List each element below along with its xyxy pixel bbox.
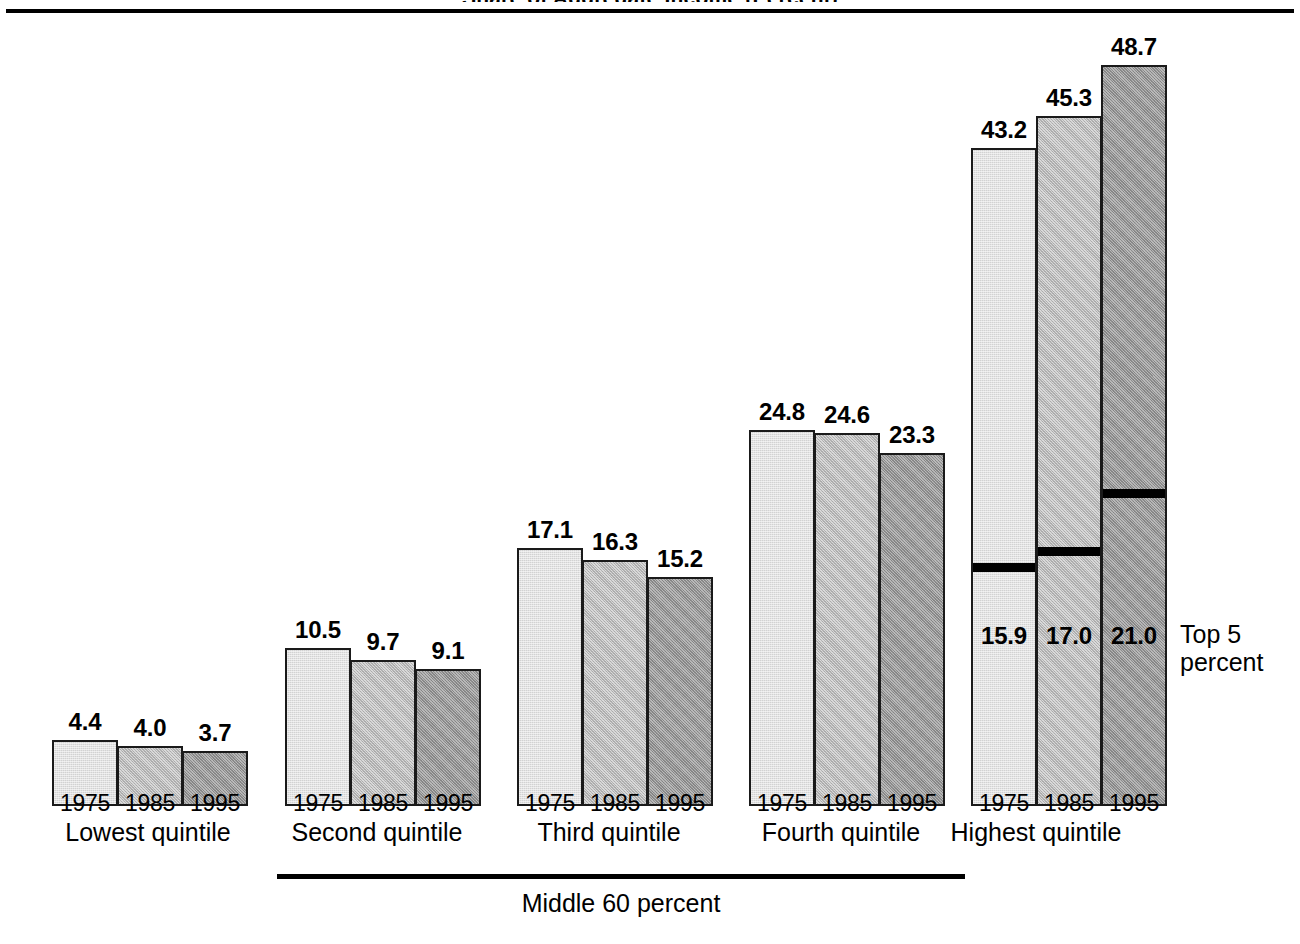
- value-label-1975: 43.2: [971, 116, 1037, 144]
- bar-highest-quintile-1985: [1036, 116, 1102, 806]
- year-label-1995: 1995: [415, 790, 481, 817]
- year-label-1995: 1995: [647, 790, 713, 817]
- value-label-1985: 16.3: [582, 528, 648, 556]
- bar-fourth-quintile-1985: [814, 433, 880, 806]
- year-label-1975: 1975: [971, 790, 1037, 817]
- bar-third-quintile-1975: [517, 548, 583, 806]
- value-label-1995: 23.3: [879, 421, 945, 449]
- value-label-1975: 4.4: [52, 708, 118, 736]
- value-label-1975: 17.1: [517, 516, 583, 544]
- year-label-1975: 1975: [517, 790, 583, 817]
- bar-third-quintile-1985: [582, 560, 648, 806]
- bar-highest-quintile-1995: [1101, 65, 1167, 806]
- value-label-1995: 48.7: [1101, 33, 1167, 61]
- bar-fourth-quintile-1995: [879, 453, 945, 806]
- bar-second-quintile-1985: [350, 660, 416, 806]
- top5-value-1995: 21.0: [1101, 622, 1167, 650]
- year-label-1975: 1975: [749, 790, 815, 817]
- year-label-1975: 1975: [52, 790, 118, 817]
- middle60-bracket-rule: [277, 874, 965, 879]
- top5-divider-1985: [1038, 547, 1100, 556]
- title-divider-rule: [6, 9, 1294, 13]
- chart-title: Share of Aggregate Income (Percent): [0, 0, 1300, 2]
- value-label-1975: 24.8: [749, 398, 815, 426]
- value-label-1995: 9.1: [415, 637, 481, 665]
- year-label-1985: 1985: [1036, 790, 1102, 817]
- top5-percent-annotation: Top 5 percent: [1180, 620, 1263, 676]
- year-label-1985: 1985: [582, 790, 648, 817]
- top5-divider-1975: [973, 563, 1035, 572]
- bar-highest-quintile-1975: [971, 148, 1037, 806]
- top5-value-1975: 15.9: [971, 622, 1037, 650]
- top5-annotation-line1: Top 5: [1180, 620, 1263, 648]
- year-label-1995: 1995: [879, 790, 945, 817]
- top5-value-1985: 17.0: [1036, 622, 1102, 650]
- bar-third-quintile-1995: [647, 577, 713, 806]
- bar-fourth-quintile-1975: [749, 430, 815, 806]
- middle60-caption: Middle 60 percent: [421, 889, 821, 918]
- chart-canvas: Share of Aggregate Income (Percent) 4.44…: [0, 0, 1300, 944]
- value-label-1975: 10.5: [285, 616, 351, 644]
- top5-annotation-line2: percent: [1180, 648, 1263, 676]
- bar-second-quintile-1975: [285, 648, 351, 806]
- value-label-1985: 24.6: [814, 401, 880, 429]
- year-label-1995: 1995: [1101, 790, 1167, 817]
- value-label-1985: 9.7: [350, 628, 416, 656]
- value-label-1995: 15.2: [647, 545, 713, 573]
- year-label-1975: 1975: [285, 790, 351, 817]
- top5-divider-1995: [1103, 489, 1165, 498]
- value-label-1985: 4.0: [117, 714, 183, 742]
- group-caption-highest-quintile: Highest quintile: [886, 818, 1186, 847]
- year-label-1985: 1985: [814, 790, 880, 817]
- year-label-1985: 1985: [350, 790, 416, 817]
- bar-second-quintile-1995: [415, 669, 481, 806]
- year-label-1995: 1995: [182, 790, 248, 817]
- value-label-1985: 45.3: [1036, 84, 1102, 112]
- value-label-1995: 3.7: [182, 719, 248, 747]
- year-label-1985: 1985: [117, 790, 183, 817]
